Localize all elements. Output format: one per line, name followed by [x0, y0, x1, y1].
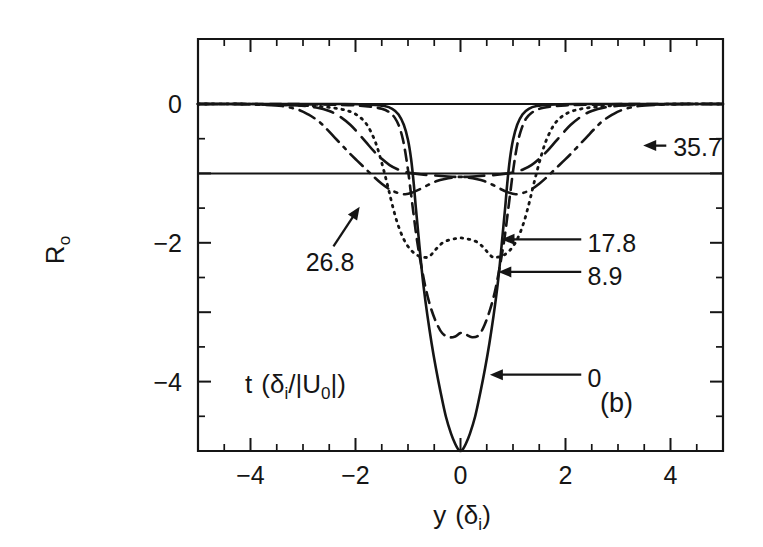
legend-title-bar-open: |: [295, 369, 302, 399]
svg-text:Ro: Ro: [40, 236, 74, 264]
svg-text:t(δi/|U0|): t(δi/|U0|): [245, 369, 346, 403]
x-axis-title-main: y: [433, 500, 446, 530]
legend-title: t(δi/|U0|): [245, 369, 346, 403]
chart-svg: −4−2024 0−2−4 35.717.88.9026.8 Ro y(δi) …: [0, 0, 763, 547]
label-35-7: 35.7: [643, 133, 722, 161]
x-axis-title-paren-close: ): [482, 500, 491, 530]
label-8-9-text: 8.9: [588, 262, 623, 290]
legend-title-bar-close: |: [330, 369, 337, 399]
x-axis-title: y(δi): [433, 500, 491, 534]
curve-17-8: [198, 104, 723, 258]
legend-title-delta: δ: [270, 369, 284, 399]
curve-8-9: [198, 104, 723, 337]
y-axis-title-sub: o: [55, 236, 74, 245]
x-tick-label: 2: [559, 461, 573, 489]
x-tick-label: 4: [664, 461, 678, 489]
x-tick-label: −4: [236, 461, 265, 489]
y-axis-title-main: R: [40, 245, 70, 264]
y-tick-label: −2: [153, 229, 182, 257]
x-tick-label: −2: [341, 461, 370, 489]
arrow-head-icon: [348, 207, 360, 221]
label-0: 0: [490, 364, 602, 392]
arrow-head-icon: [490, 369, 503, 380]
label-35-7-text: 35.7: [673, 133, 722, 161]
legend-title-u: U: [302, 369, 321, 399]
x-tick-labels: −4−2024: [236, 461, 677, 489]
y-tick-label: −4: [153, 368, 182, 396]
label-26-8-text: 26.8: [306, 248, 355, 276]
figure-container: −4−2024 0−2−4 35.717.88.9026.8 Ro y(δi) …: [0, 0, 763, 547]
panel-label: (b): [600, 388, 633, 418]
arrow-head-icon: [643, 140, 656, 151]
label-26-8: 26.8: [306, 207, 360, 277]
x-axis-title-symbol: δ: [464, 500, 478, 530]
legend-title-paren-open: (: [261, 369, 270, 399]
x-axis-title-paren-open: (: [455, 500, 464, 530]
label-17-8-text: 17.8: [588, 229, 637, 257]
curve-35-7: [198, 104, 723, 194]
label-8-9: 8.9: [498, 262, 622, 290]
x-tick-label: 0: [454, 461, 468, 489]
svg-text:y(δi): y(δi): [433, 500, 491, 534]
y-tick-label: 0: [168, 90, 182, 118]
y-axis-title: Ro: [40, 236, 74, 264]
reference-lines: [198, 104, 723, 173]
legend-title-paren-close: ): [337, 369, 346, 399]
y-tick-labels: 0−2−4: [153, 90, 182, 396]
label-17-8: 17.8: [502, 229, 637, 257]
curve-26-8: [198, 104, 723, 177]
legend-title-u-sub: 0: [321, 384, 330, 403]
legend-title-t: t: [245, 369, 253, 399]
